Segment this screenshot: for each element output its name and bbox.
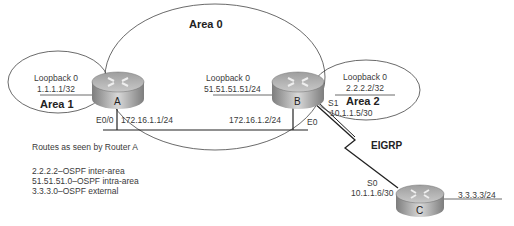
area1-label: Area 1 xyxy=(40,99,74,109)
router-a-interface-ip: 172.16.1.1/24 xyxy=(121,115,173,125)
router-b-loopback-name: Loopback 0 xyxy=(206,73,250,83)
routes-title: Routes as seen by Router A xyxy=(32,142,138,152)
area2-label: Area 2 xyxy=(346,96,380,106)
router-c-serial-if: S0 xyxy=(367,178,377,188)
router-b-label: B xyxy=(294,97,301,107)
area0-label: Area 0 xyxy=(189,19,223,29)
router-b-loopback-ip: 51.51.51.51/24 xyxy=(204,84,261,94)
router-b-loopback2-ip: 2.2.2.2/32 xyxy=(327,83,403,93)
router-b-ethernet-if: E0 xyxy=(307,117,317,127)
router-b-serial-ip: 10.1.1.5/30 xyxy=(330,108,373,118)
router-b-ethernet-ip: 172.16.1.2/24 xyxy=(229,115,281,125)
router-a-loopback-name: Loopback 0 xyxy=(31,73,81,83)
router-a-interface: E0/0 xyxy=(96,115,114,125)
router-a-loopback-ip: 1.1.1.1/32 xyxy=(31,84,81,94)
route-entry: 51.51.51.0–OSPF intra-area xyxy=(32,176,139,186)
router-b-loopback2-name: Loopback 0 xyxy=(327,72,403,82)
router-c-serial-ip: 10.1.1.6/30 xyxy=(351,188,394,198)
router-c-label: C xyxy=(416,206,423,216)
route-entry: 2.2.2.2–OSPF inter-area xyxy=(32,166,125,176)
router-a-label: A xyxy=(114,97,121,107)
link-protocol-label: EIGRP xyxy=(371,141,402,151)
router-b-serial-if: S1 xyxy=(328,98,338,108)
router-c-lan-ip: 3.3.3.3/24 xyxy=(458,190,496,200)
route-entry: 3.3.3.0–OSPF external xyxy=(32,186,118,196)
